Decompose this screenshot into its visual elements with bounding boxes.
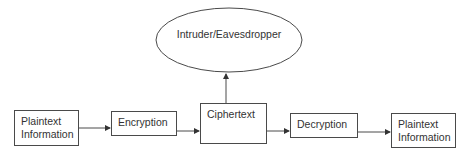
node-plaintext-input-line1: Plaintext bbox=[21, 115, 72, 128]
intruder-label: Intruder/Eavesdropper bbox=[154, 28, 304, 40]
node-decryption: Decryption bbox=[290, 113, 358, 138]
node-plaintext-output: Plaintext Information bbox=[391, 113, 456, 148]
node-encryption: Encryption bbox=[111, 111, 177, 136]
node-plaintext-output-line2: Information bbox=[398, 131, 449, 144]
node-plaintext-output-line1: Plaintext bbox=[398, 118, 449, 131]
node-ciphertext-label: Ciphertext bbox=[207, 108, 260, 121]
node-plaintext-input: Plaintext Information bbox=[14, 110, 79, 146]
intruder-ellipse bbox=[156, 8, 302, 72]
node-ciphertext: Ciphertext bbox=[200, 103, 267, 144]
node-encryption-label: Encryption bbox=[118, 116, 170, 129]
node-decryption-label: Decryption bbox=[297, 118, 351, 131]
node-plaintext-input-line2: Information bbox=[21, 128, 72, 141]
